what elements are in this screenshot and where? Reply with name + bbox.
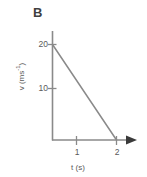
velocity-series-line	[53, 45, 117, 141]
velocity-time-graph-figure: B v (ms-1) t (s) 20 10 1 2	[0, 0, 147, 177]
plot-area	[0, 0, 147, 177]
axis-lines	[52, 31, 126, 141]
arrow-right-icon	[126, 136, 137, 145]
axis-ticks	[48, 45, 117, 146]
